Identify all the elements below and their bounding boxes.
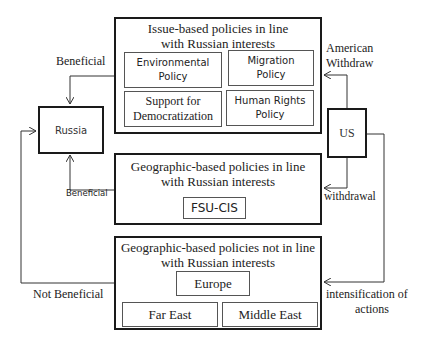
geo-not-in-line-title-line2: with Russian interests <box>116 255 320 270</box>
environmental-policy-line1: Environmental <box>137 56 210 70</box>
label-intensification-line1: intensification of <box>326 287 408 302</box>
europe-label: Europe <box>194 276 232 292</box>
label-geo-in-line-beneficial: Beneficial <box>66 188 108 198</box>
label-withdrawal: withdrawal <box>324 190 376 202</box>
migration-policy-line1: Migration <box>247 54 294 68</box>
support-democratization-line2: Democratization <box>133 109 213 124</box>
migration-policy-line2: Policy <box>257 68 286 82</box>
environmental-policy-line2: Policy <box>159 70 188 84</box>
support-democratization-line1: Support for <box>146 94 201 109</box>
edge-us-to-geo-in-line <box>324 158 347 188</box>
europe-box: Europe <box>176 271 250 296</box>
middle-east-label: Middle East <box>238 307 301 323</box>
environmental-policy-box: Environmental Policy <box>124 52 222 88</box>
us-label: US <box>339 126 354 141</box>
support-democratization-box: Support for Democratization <box>124 91 222 127</box>
label-intensification-line2: actions <box>355 302 389 317</box>
migration-policy-box: Migration Policy <box>228 50 314 86</box>
geo-in-line-title-line1: Geographic-based policies in line <box>116 159 320 174</box>
label-american-withdraw-line1: American <box>326 41 373 56</box>
geo-in-line-box: Geographic-based policies in line with R… <box>114 153 322 225</box>
label-issue-beneficial: Beneficial <box>56 54 105 69</box>
far-east-box: Far East <box>122 302 218 327</box>
edge-issue-to-russia <box>70 76 114 104</box>
us-node: US <box>327 108 367 158</box>
issue-box-title-line2: with Russian interests <box>116 36 320 51</box>
geo-not-in-line-box: Geographic-based policies not in line wi… <box>114 236 322 330</box>
fsu-cis-box: FSU-CIS <box>183 197 246 219</box>
russia-label: Russia <box>55 125 87 136</box>
human-rights-policy-box: Human Rights Policy <box>226 90 314 126</box>
geo-in-line-title-line2: with Russian interests <box>116 174 320 189</box>
middle-east-box: Middle East <box>222 302 318 327</box>
diagram-canvas: Issue-based policies in line with Russia… <box>0 0 422 348</box>
russia-node: Russia <box>38 106 104 154</box>
far-east-label: Far East <box>149 307 192 323</box>
label-not-beneficial: Not Beneficial <box>33 287 103 302</box>
geo-not-in-line-title-line1: Geographic-based policies not in line <box>116 240 320 255</box>
issue-box-title-line1: Issue-based policies in line <box>116 21 320 36</box>
issue-based-policies-box: Issue-based policies in line with Russia… <box>114 17 322 134</box>
label-american-withdraw-line2: Withdraw <box>326 56 374 71</box>
fsu-cis-label: FSU-CIS <box>191 201 238 215</box>
human-rights-policy-line2: Policy <box>256 108 285 122</box>
edge-us-to-issue <box>324 75 347 108</box>
human-rights-policy-line1: Human Rights <box>235 94 306 108</box>
edge-geo-in-line-to-russia <box>70 155 114 190</box>
